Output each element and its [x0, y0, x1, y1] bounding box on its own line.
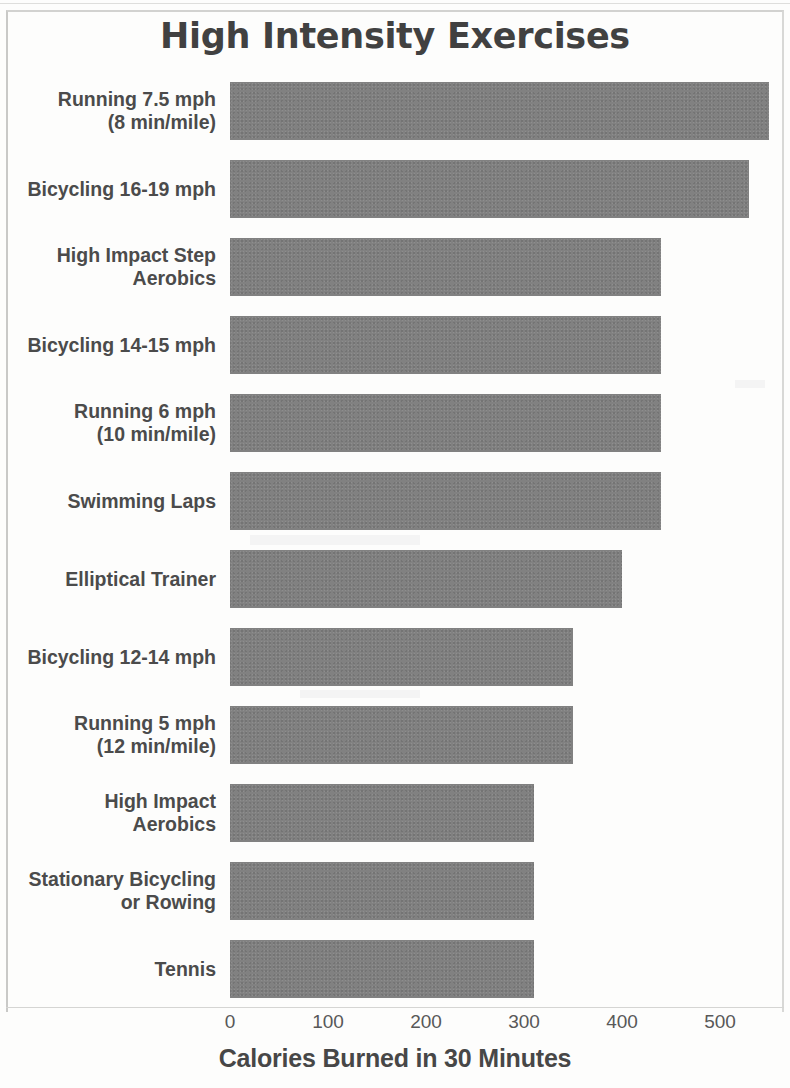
- bar-track: [230, 306, 784, 384]
- chart-row: Swimming Laps: [6, 462, 784, 540]
- x-axis-tick-labels: 0100200300400500: [6, 1011, 784, 1037]
- chart-row: High Impact Step Aerobics: [6, 228, 784, 306]
- chart-row: High Impact Aerobics: [6, 774, 784, 852]
- category-label: Swimming Laps: [6, 462, 220, 540]
- x-tick-label: 0: [225, 1011, 236, 1033]
- chart-row: Running 5 mph (12 min/mile): [6, 696, 784, 774]
- chart-row: Elliptical Trainer: [6, 540, 784, 618]
- plot-area: Running 7.5 mph (8 min/mile)Bicycling 16…: [6, 72, 784, 1006]
- bar: [230, 628, 573, 686]
- x-axis-line: [6, 1007, 784, 1008]
- chart-title: High Intensity Exercises: [0, 16, 790, 56]
- bar-track: [230, 150, 784, 228]
- bar: [230, 82, 769, 140]
- chart-row: Stationary Bicycling or Rowing: [6, 852, 784, 930]
- x-tick-label: 300: [508, 1011, 540, 1033]
- bar-track: [230, 852, 784, 930]
- bar: [230, 940, 534, 998]
- bar: [230, 706, 573, 764]
- bar: [230, 862, 534, 920]
- category-label: Running 6 mph (10 min/mile): [6, 384, 220, 462]
- bar: [230, 238, 661, 296]
- chart-row: Bicycling 16-19 mph: [6, 150, 784, 228]
- bar: [230, 394, 661, 452]
- x-tick-label: 400: [606, 1011, 638, 1033]
- category-label: Running 7.5 mph (8 min/mile): [6, 72, 220, 150]
- bar-track: [230, 228, 784, 306]
- chart-row: Running 7.5 mph (8 min/mile): [6, 72, 784, 150]
- category-label: Stationary Bicycling or Rowing: [6, 852, 220, 930]
- bar: [230, 472, 661, 530]
- bar-track: [230, 696, 784, 774]
- bar: [230, 160, 749, 218]
- bar-track: [230, 462, 784, 540]
- bar: [230, 784, 534, 842]
- x-tick-label: 200: [410, 1011, 442, 1033]
- category-label: Bicycling 12-14 mph: [6, 618, 220, 696]
- category-label: Bicycling 14-15 mph: [6, 306, 220, 384]
- category-label: High Impact Aerobics: [6, 774, 220, 852]
- category-label: Running 5 mph (12 min/mile): [6, 696, 220, 774]
- category-label: High Impact Step Aerobics: [6, 228, 220, 306]
- chart-row: Bicycling 12-14 mph: [6, 618, 784, 696]
- chart-row: Bicycling 14-15 mph: [6, 306, 784, 384]
- category-label: Bicycling 16-19 mph: [6, 150, 220, 228]
- scan-artifact-line: [0, 3, 790, 4]
- x-tick-label: 100: [312, 1011, 344, 1033]
- x-axis-title: Calories Burned in 30 Minutes: [0, 1044, 790, 1073]
- category-label: Tennis: [6, 930, 220, 1008]
- bar-track: [230, 384, 784, 462]
- chart-row: Running 6 mph (10 min/mile): [6, 384, 784, 462]
- bar: [230, 316, 661, 374]
- bar-track: [230, 540, 784, 618]
- bar-track: [230, 774, 784, 852]
- x-tick-label: 500: [704, 1011, 736, 1033]
- bar-track: [230, 930, 784, 1008]
- chart-row: Tennis: [6, 930, 784, 1008]
- bar-track: [230, 618, 784, 696]
- category-label: Elliptical Trainer: [6, 540, 220, 618]
- bar-track: [230, 72, 784, 150]
- bar: [230, 550, 622, 608]
